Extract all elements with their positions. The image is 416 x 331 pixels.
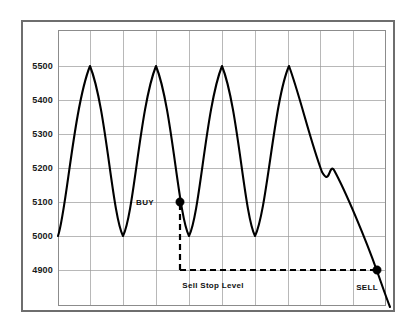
buy-signal-marker[interactable] [176,198,184,206]
buy-signal-label: BUY [136,198,154,207]
ytick-label-5000: 5000 [32,231,53,241]
plot-background [58,30,385,305]
ytick-label-5400: 5400 [32,95,53,105]
ytick-label-5200: 5200 [32,163,53,173]
sell-signal-label: SELL [356,283,378,292]
sell-signal-marker[interactable] [373,266,381,274]
ytick-label-5300: 5300 [32,129,53,139]
chart-figure: 5500 5400 5300 5200 5100 5000 4900 BUY S… [0,0,416,331]
ytick-label-5100: 5100 [32,197,53,207]
ytick-label-4900: 4900 [32,265,53,275]
sell-stop-level-label: Sell Stop Level [182,281,243,290]
price-chart: 5500 5400 5300 5200 5100 5000 4900 BUY S… [0,0,416,331]
ytick-label-5500: 5500 [32,61,53,71]
